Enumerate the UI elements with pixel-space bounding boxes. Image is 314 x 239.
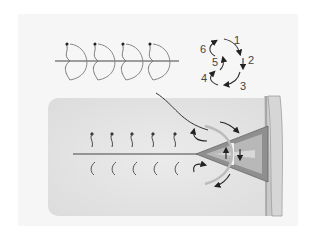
crescent-wave-row <box>55 43 179 81</box>
stroke-cycle-diagram: 1 2 3 4 5 6 <box>200 34 254 92</box>
stroke-label-2: 2 <box>248 54 254 66</box>
stroke-label-3: 3 <box>240 80 246 92</box>
cone-flow-panel <box>48 93 283 216</box>
stroke-label-4: 4 <box>201 72 207 84</box>
stroke-label-6: 6 <box>200 43 206 55</box>
stroke-label-5: 5 <box>212 56 218 68</box>
stroke-label-1: 1 <box>234 34 240 46</box>
diagram-canvas: 1 2 3 4 5 6 <box>0 0 314 239</box>
